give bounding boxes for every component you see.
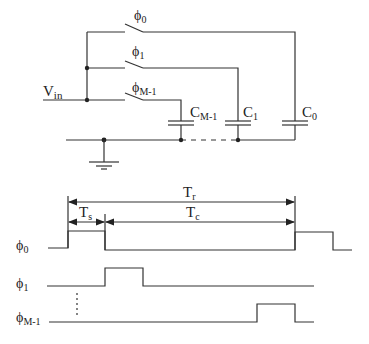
switch-phiM-1: ϕM-1: [125, 80, 181, 121]
phi1-waveform: [47, 268, 314, 286]
svg-text:ϕ1: ϕ1: [132, 44, 144, 61]
ground-icon: [89, 140, 119, 169]
Tc-label: Tc: [186, 204, 200, 222]
phi1-label: ϕ1: [16, 276, 28, 293]
svg-text:C0: C0: [302, 104, 317, 122]
phiM-1-label: ϕM-1: [16, 310, 41, 327]
svg-text:ϕ0: ϕ0: [134, 8, 146, 25]
sampling-circuit-diagram: Vin ϕ0 ϕ1 ϕM-1 CM-1: [0, 0, 369, 344]
capacitor-CM-1: CM-1: [168, 104, 217, 140]
Ts-label: Ts: [79, 204, 92, 222]
junction-dot: [179, 138, 183, 142]
junction-dot: [85, 98, 89, 102]
phi0-label: ϕ0: [16, 238, 28, 255]
svg-text:CM-1: CM-1: [190, 104, 217, 122]
svg-text:ϕM-1: ϕM-1: [132, 80, 157, 97]
svg-text:C1: C1: [243, 104, 258, 122]
phi0-waveform: [48, 231, 352, 250]
timing-diagram: Tr Ts Tc ϕ0 ϕ1 ϕM-1: [16, 184, 352, 327]
Tr-label: Tr: [183, 184, 196, 202]
circuit: Vin ϕ0 ϕ1 ϕM-1 CM-1: [43, 8, 317, 169]
junction-dot: [236, 138, 240, 142]
switch-phi0: ϕ0: [125, 8, 295, 121]
capacitor-C1: C1: [225, 104, 258, 140]
junction-dot: [85, 66, 89, 70]
phiM-1-waveform: [49, 304, 314, 322]
vin-label: Vin: [43, 83, 63, 101]
capacitor-C0: C0: [282, 104, 317, 140]
